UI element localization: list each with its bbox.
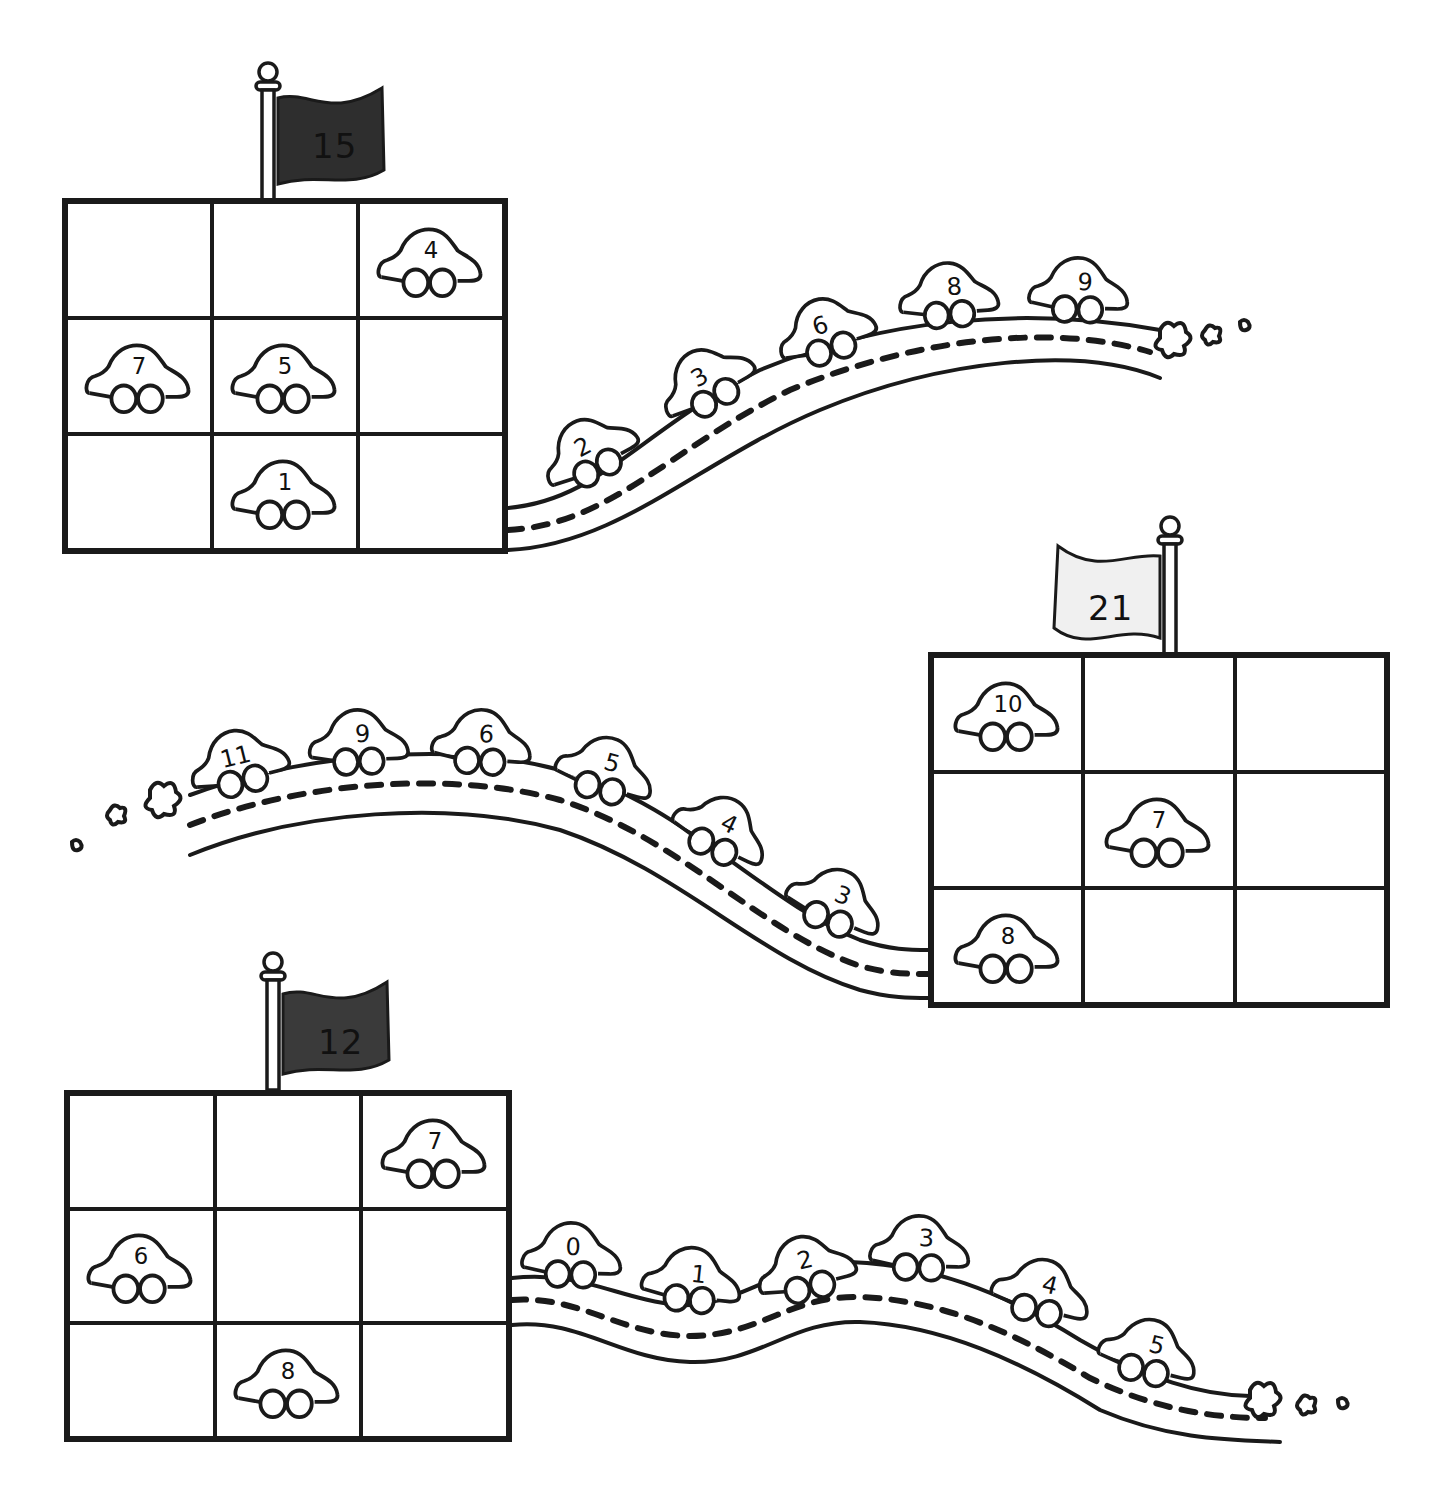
flag-number: 15 <box>312 126 357 166</box>
svg-text:7: 7 <box>132 353 147 379</box>
svg-text:7: 7 <box>427 1128 442 1154</box>
road-car[interactable]: 3 <box>647 328 765 433</box>
car-icon: 7 <box>378 1112 492 1190</box>
car-icon: 5 <box>228 337 342 415</box>
magic-square-grid: 10 7 8 <box>928 652 1390 1008</box>
grid-cell[interactable] <box>1235 888 1386 1004</box>
magic-square-grid: 7 6 8 <box>64 1090 512 1442</box>
road-car[interactable]: 3 <box>869 1214 970 1282</box>
grid-cell-filled[interactable]: 1 <box>212 434 358 550</box>
grid-cell-filled[interactable]: 7 <box>66 318 212 434</box>
car-icon: 7 <box>82 337 196 415</box>
svg-text:8: 8 <box>946 272 963 301</box>
svg-text:1: 1 <box>278 469 293 495</box>
svg-text:1: 1 <box>690 1260 708 1289</box>
car-icon: 1 <box>228 453 342 531</box>
magic-square-grid: 4 7 5 1 <box>62 198 508 554</box>
svg-text:0: 0 <box>565 1233 581 1262</box>
road-car[interactable]: 4 <box>986 1249 1097 1335</box>
grid-cell-filled[interactable]: 4 <box>358 202 504 318</box>
road-1-cars: 2 3 6 8 9 <box>530 256 1129 502</box>
road-car[interactable]: 5 <box>1093 1309 1204 1395</box>
grid-cell[interactable] <box>66 202 212 318</box>
svg-text:8: 8 <box>281 1358 296 1384</box>
svg-text:5: 5 <box>278 353 293 379</box>
grid-cell-filled[interactable]: 8 <box>932 888 1083 1004</box>
road-car[interactable]: 5 <box>549 725 661 814</box>
grid-cell[interactable] <box>1083 888 1234 1004</box>
road-car[interactable]: 1 <box>639 1243 744 1317</box>
svg-text:8: 8 <box>1000 923 1015 949</box>
grid-cell[interactable] <box>215 1209 362 1324</box>
road-car[interactable]: 0 <box>521 1221 622 1289</box>
flag-pole-icon <box>1048 512 1188 658</box>
svg-text:3: 3 <box>918 1224 934 1253</box>
road-car[interactable]: 4 <box>663 779 780 880</box>
svg-text:7: 7 <box>1152 807 1167 833</box>
flag-number: 21 <box>1088 588 1133 628</box>
grid-cell[interactable] <box>66 434 212 550</box>
grid-cell[interactable] <box>1235 772 1386 888</box>
flag-number: 12 <box>318 1022 363 1062</box>
grid-cell[interactable] <box>361 1209 508 1324</box>
car-icon: 10 <box>951 675 1065 753</box>
grid-cell[interactable] <box>212 202 358 318</box>
road-car[interactable]: 6 <box>430 706 533 777</box>
grid-cell[interactable] <box>932 772 1083 888</box>
svg-text:6: 6 <box>134 1243 149 1269</box>
worksheet: 2 3 6 8 9 11 9 6 <box>0 0 1451 1503</box>
car-icon: 7 <box>1102 791 1216 869</box>
grid-cell[interactable] <box>215 1094 362 1209</box>
grid-cell-filled[interactable]: 8 <box>215 1323 362 1438</box>
road-car[interactable]: 9 <box>308 708 409 776</box>
svg-text:9: 9 <box>1077 268 1093 297</box>
svg-text:10: 10 <box>993 691 1022 717</box>
grid-cell-filled[interactable]: 5 <box>212 318 358 434</box>
car-icon: 8 <box>231 1342 345 1420</box>
grid-cell[interactable] <box>361 1323 508 1438</box>
svg-text:4: 4 <box>424 237 439 263</box>
car-icon: 8 <box>951 907 1065 985</box>
grid-cell[interactable] <box>358 434 504 550</box>
grid-cell[interactable] <box>68 1323 215 1438</box>
car-icon: 4 <box>374 221 488 299</box>
flag-pole-icon <box>255 950 395 1092</box>
road-2-cars: 11 9 6 5 4 3 <box>183 706 893 949</box>
grid-cell[interactable] <box>68 1094 215 1209</box>
grid-cell[interactable] <box>1235 656 1386 772</box>
grid-cell-filled[interactable]: 7 <box>361 1094 508 1209</box>
car-icon: 6 <box>84 1227 198 1305</box>
grid-cell-filled[interactable]: 10 <box>932 656 1083 772</box>
road-car[interactable]: 9 <box>1028 256 1129 324</box>
grid-cell[interactable] <box>1083 656 1234 772</box>
grid-cell-filled[interactable]: 7 <box>1083 772 1234 888</box>
svg-text:9: 9 <box>355 720 371 749</box>
svg-text:6: 6 <box>478 720 495 749</box>
grid-cell[interactable] <box>358 318 504 434</box>
road-3-cars: 0 1 2 3 4 5 <box>521 1214 1204 1395</box>
grid-cell-filled[interactable]: 6 <box>68 1209 215 1324</box>
